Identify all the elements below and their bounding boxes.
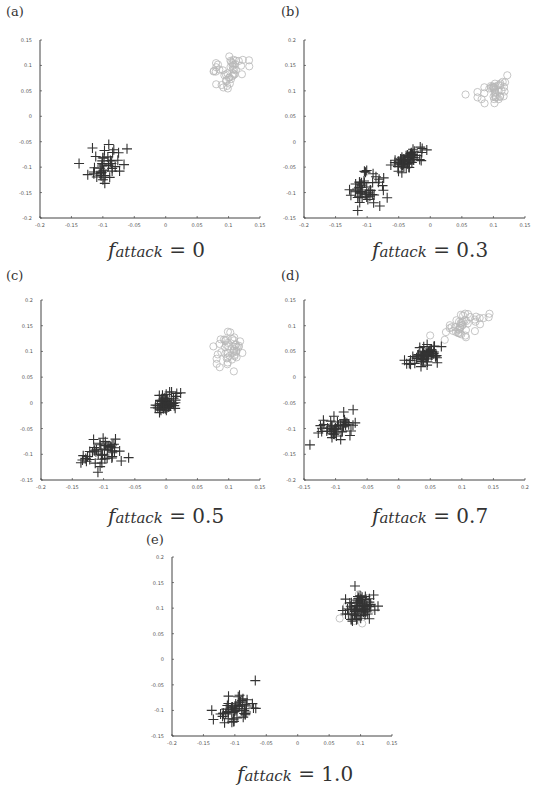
svg-text:-0.1: -0.1 bbox=[154, 707, 164, 713]
svg-text:-0.1: -0.1 bbox=[230, 740, 240, 746]
svg-text:-0.05: -0.05 bbox=[260, 740, 273, 746]
svg-text:0.1: 0.1 bbox=[357, 740, 365, 746]
scatter-plot: -0.2-0.15-0.1-0.0500.050.10.15-0.15-0.1-… bbox=[0, 0, 545, 800]
svg-text:-0.15: -0.15 bbox=[197, 740, 210, 746]
svg-text:0.05: 0.05 bbox=[153, 631, 164, 637]
svg-text:0.2: 0.2 bbox=[156, 554, 164, 560]
caption-value: = 1.0 bbox=[292, 762, 353, 786]
svg-text:0: 0 bbox=[161, 656, 164, 662]
svg-text:0.05: 0.05 bbox=[324, 740, 335, 746]
svg-text:-0.05: -0.05 bbox=[151, 682, 164, 688]
caption-subscript: attack bbox=[244, 767, 291, 785]
svg-text:0: 0 bbox=[296, 740, 299, 746]
svg-text:-0.15: -0.15 bbox=[151, 733, 164, 739]
svg-text:-0.2: -0.2 bbox=[167, 740, 177, 746]
svg-text:0.15: 0.15 bbox=[386, 740, 397, 746]
panel-caption: fattack = 1.0 bbox=[237, 762, 353, 786]
svg-text:0.15: 0.15 bbox=[153, 580, 164, 586]
svg-text:0.1: 0.1 bbox=[156, 605, 164, 611]
